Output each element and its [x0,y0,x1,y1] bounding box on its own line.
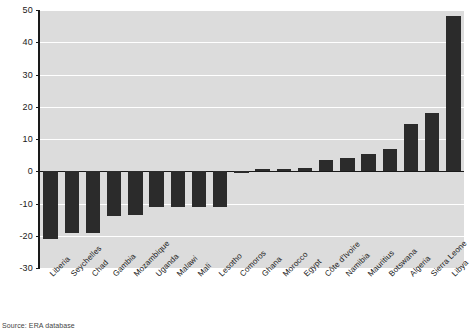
y-tick-mark [36,236,40,237]
y-tick-mark [36,171,40,172]
bar [383,149,397,172]
y-tick-mark [36,107,40,108]
bar [213,171,227,206]
y-tick-mark [36,204,40,205]
y-tick-mark [36,139,40,140]
y-tick-mark [36,42,40,43]
bar [234,171,248,173]
y-tick-label: 20 [0,102,33,112]
y-tick-mark [36,75,40,76]
gridline [40,236,464,237]
bar [255,169,269,172]
gridline [40,10,464,11]
bar [107,171,121,216]
gridline [40,75,464,76]
y-tick-label: 0 [0,166,33,176]
bar [86,171,100,232]
bar [65,171,79,232]
bar [277,169,291,172]
bar [128,171,142,215]
y-tick-label: 10 [0,134,33,144]
bar [361,154,375,172]
source-note: Source: ERA database [2,322,75,329]
y-tick-label: -10 [0,199,33,209]
bar [298,168,312,171]
gridline [40,107,464,108]
gridline [40,204,464,205]
bar [340,158,354,171]
x-axis-labels: LiberiaSeychellesChadGambiaMozambiqueUga… [40,272,464,325]
plot-area [40,10,464,268]
y-tick-label: -30 [0,263,33,273]
bar [192,171,206,206]
y-tick-mark [36,10,40,11]
y-tick-label: 40 [0,37,33,47]
bar [43,171,57,239]
y-tick-label: 50 [0,5,33,15]
bar [149,171,163,206]
bar [319,160,333,171]
zero-line [40,171,464,172]
bar [404,124,418,171]
bar [446,16,460,171]
y-tick-mark [36,268,40,269]
gridline [40,42,464,43]
y-tick-label: 30 [0,70,33,80]
y-tick-label: -20 [0,231,33,241]
bar [425,113,439,171]
gridline [40,139,464,140]
bar [171,171,185,206]
